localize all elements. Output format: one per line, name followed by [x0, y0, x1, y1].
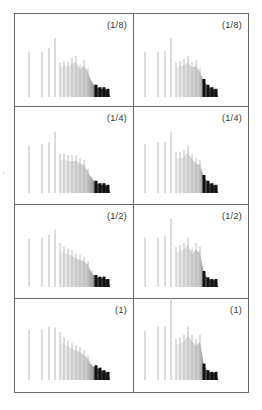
spectrum-right-row4 [145, 298, 218, 380]
scan-artifact [3, 173, 4, 174]
spectrum-right-row3 [145, 219, 218, 287]
spectrum-left-row4 [29, 327, 110, 380]
spectrum-left-row1 [29, 38, 110, 97]
spectrum-right-row1 [145, 38, 218, 97]
spectrum-left-row3 [29, 229, 110, 287]
spectrum-right-row2 [145, 132, 218, 194]
spectrum-left-row2 [29, 132, 110, 194]
spectra-plot-layer [0, 0, 262, 410]
